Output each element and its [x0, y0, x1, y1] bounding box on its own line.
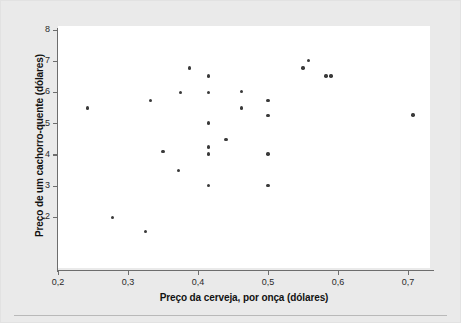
page-bottom-rule	[14, 315, 447, 316]
scatter-plot-figure: 23456780,20,30,40,50,60,7 Preço da cerve…	[0, 0, 461, 323]
y-axis-line	[57, 28, 58, 272]
y-tick-mark	[53, 92, 57, 93]
data-point	[207, 145, 210, 148]
x-tick-label: 0,2	[43, 277, 73, 287]
x-tick-label: 0,6	[323, 277, 353, 287]
data-point	[188, 66, 191, 69]
data-point	[207, 152, 210, 155]
y-tick-mark	[53, 217, 57, 218]
x-axis-line	[57, 270, 434, 271]
y-axis-title: Preço de um cachorro-quente (dólares)	[34, 21, 45, 271]
data-point	[329, 74, 332, 77]
data-point	[266, 184, 269, 187]
x-tick-mark	[198, 271, 199, 275]
y-tick-mark	[53, 123, 57, 124]
y-tick-mark	[53, 30, 57, 31]
data-point	[301, 66, 304, 69]
data-point	[266, 152, 269, 155]
x-tick-mark	[268, 271, 269, 275]
y-tick-mark	[53, 186, 57, 187]
data-point	[86, 106, 89, 109]
y-tick-mark	[53, 154, 57, 155]
x-tick-mark	[408, 271, 409, 275]
data-point	[224, 138, 227, 141]
x-tick-label: 0,5	[253, 277, 283, 287]
data-point	[324, 74, 327, 77]
y-tick-mark	[53, 61, 57, 62]
x-tick-mark	[128, 271, 129, 275]
x-tick-mark	[338, 271, 339, 275]
data-point	[149, 99, 152, 102]
data-point	[144, 230, 147, 233]
plot-canvas	[58, 26, 430, 268]
x-tick-label: 0,3	[113, 277, 143, 287]
data-point	[207, 121, 210, 124]
data-point	[411, 113, 414, 116]
x-tick-mark	[58, 271, 59, 275]
x-tick-label: 0,4	[183, 277, 213, 287]
x-tick-label: 0,7	[393, 277, 423, 287]
data-point	[266, 99, 269, 102]
x-axis-title: Preço da cerveja, por onça (dólares)	[58, 292, 430, 303]
data-point	[207, 74, 210, 77]
data-point	[240, 106, 243, 109]
